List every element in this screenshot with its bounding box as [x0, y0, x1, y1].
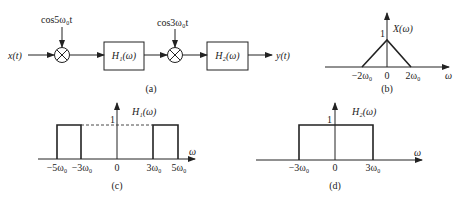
caption-b: (b): [381, 83, 393, 95]
panel-c-h1: 1 H₁(ω) −5ω₀ −3ω₀ 0 3ω₀ 5ω₀ ω (c): [38, 103, 196, 192]
mixer-1-icon: [55, 48, 70, 63]
panel-d-h2: 1 H₂(ω) −3ω₀ 0 3ω₀ ω (d): [256, 103, 422, 192]
c-tick-0: 0: [115, 162, 120, 173]
output-label: y(t): [275, 50, 291, 62]
c-tick-neg5: −5ω₀: [47, 162, 68, 173]
c-right-passband: [153, 125, 178, 159]
d-tick-pos3: 3ω₀: [365, 162, 381, 173]
diagram-canvas: x(t) cos5ω₀t H₁(ω) cos3ω₀t H₂(ω) y(t) (a…: [0, 0, 460, 203]
mixer-2-icon: [168, 48, 183, 63]
block-diagram: x(t) cos5ω₀t H₁(ω) cos3ω₀t H₂(ω) y(t) (a…: [7, 14, 291, 95]
caption-d: (d): [329, 180, 341, 192]
d-passband: [299, 125, 373, 160]
filter-h1-label: H₁(ω): [111, 50, 137, 62]
d-tick-neg3: −3ω₀: [289, 162, 310, 173]
c-level-label: 1: [110, 114, 115, 125]
d-function-label: H₂(ω): [351, 106, 377, 118]
c-tick-pos5: 5ω₀: [171, 162, 187, 173]
c-function-label: H₁(ω): [131, 106, 157, 118]
d-axis-label: ω: [414, 147, 421, 158]
b-peak-label: 1: [380, 28, 385, 39]
c-axis-label: ω: [189, 146, 196, 157]
b-tick-neg2: −2ω₀: [352, 70, 373, 81]
filter-h2-label: H₂(ω): [214, 50, 240, 62]
input-label: x(t): [7, 50, 23, 62]
b-tick-0: 0: [385, 70, 390, 81]
mixer-1-signal-label: cos5ω₀t: [41, 14, 72, 25]
c-tick-neg3: −3ω₀: [72, 162, 93, 173]
panel-b-spectrum: 1 X(ω) −2ω₀ 0 2ω₀ ω (b): [325, 13, 452, 95]
b-axis-label: ω: [445, 70, 452, 81]
c-tick-pos3: 3ω₀: [146, 162, 162, 173]
caption-a: (a): [145, 83, 156, 95]
d-level-label: 1: [327, 114, 332, 125]
d-tick-0: 0: [333, 162, 338, 173]
b-function-label: X(ω): [392, 23, 413, 35]
caption-c: (c): [111, 180, 122, 192]
mixer-2-signal-label: cos3ω₀t: [157, 17, 188, 28]
c-left-passband: [57, 125, 81, 159]
b-tick-pos2: 2ω₀: [405, 70, 421, 81]
